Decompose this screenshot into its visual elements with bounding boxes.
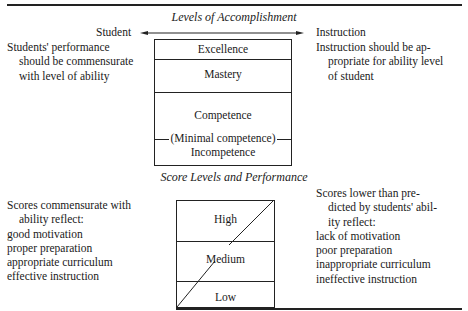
commensurate-note: Scores commensurate with ability reflect… bbox=[7, 198, 131, 284]
arrow-left-label: Student bbox=[96, 25, 131, 39]
student-note: Students' performance should be commensu… bbox=[7, 40, 133, 83]
bottom-rule bbox=[176, 308, 462, 310]
level-mastery: Mastery bbox=[155, 68, 291, 80]
note-line: Scores commensurate with bbox=[7, 198, 131, 212]
note-line: of student bbox=[316, 69, 443, 83]
note-line: Scores lower than pre- bbox=[316, 186, 437, 200]
arrow-right-icon bbox=[296, 31, 304, 35]
arrow-right-label: Instruction bbox=[316, 25, 366, 39]
divider bbox=[155, 92, 291, 93]
note-line: with level of ability bbox=[7, 69, 133, 83]
note-line: ability reflect: bbox=[7, 212, 131, 226]
score-levels-box: High Medium Low bbox=[176, 200, 275, 308]
note-line: dicted by students' abil- bbox=[316, 200, 437, 214]
note-line: good motivation bbox=[7, 227, 131, 241]
score-levels-title: Score Levels and Performance bbox=[0, 170, 468, 185]
instruction-note: Instruction should be ap- propriate for … bbox=[316, 40, 443, 83]
level-high: High bbox=[177, 213, 274, 225]
note-line: inappropriate curriculum bbox=[316, 257, 437, 271]
level-low: Low bbox=[177, 291, 274, 303]
arrow-left-icon bbox=[140, 31, 148, 35]
note-line: poor preparation bbox=[316, 243, 437, 257]
lower-scores-note: Scores lower than pre- dicted by student… bbox=[316, 186, 437, 286]
level-excellence: Excellence bbox=[155, 43, 291, 55]
note-line: ity reflect: bbox=[316, 215, 437, 229]
note-line: Instruction should be ap- bbox=[316, 40, 443, 54]
note-line: ineffective instruction bbox=[316, 272, 437, 286]
note-line: Students' performance bbox=[7, 40, 133, 54]
divider bbox=[177, 241, 274, 242]
note-line: should be commensurate bbox=[7, 54, 133, 68]
note-line: appropriate curriculum bbox=[7, 255, 131, 269]
divider bbox=[155, 59, 291, 60]
divider bbox=[177, 281, 274, 282]
level-incompetence: Incompetence bbox=[155, 146, 291, 158]
level-competence: Competence bbox=[155, 109, 291, 121]
note-line: effective instruction bbox=[7, 269, 131, 283]
note-line: propriate for ability level bbox=[316, 54, 443, 68]
note-line: proper preparation bbox=[7, 241, 131, 255]
level-minimal-competence: (Minimal competence) bbox=[155, 132, 291, 144]
level-medium: Medium bbox=[177, 253, 274, 265]
note-line: lack of motivation bbox=[316, 229, 437, 243]
levels-box: Excellence Mastery Competence (Minimal c… bbox=[154, 39, 292, 166]
